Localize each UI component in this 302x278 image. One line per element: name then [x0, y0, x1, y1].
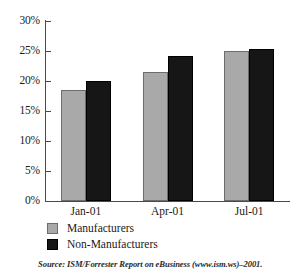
- bar-manufacturers-jul-01: [224, 51, 249, 201]
- chart-figure: 30%25%20%15%10%5%0% Jan-01Apr-01Jul-01 M…: [0, 0, 302, 278]
- chart-legend: Manufacturers Non-Manufacturers: [47, 220, 277, 252]
- y-axis-tick-label: 25%: [0, 45, 40, 57]
- x-axis-line: [45, 201, 290, 202]
- y-axis-tick-label: 10%: [0, 135, 40, 147]
- bar-manufacturers-jan-01: [61, 90, 86, 201]
- source-note: Source: ISM/Forrester Report on eBusines…: [38, 259, 262, 269]
- gray-swatch-icon: [47, 223, 58, 234]
- legend-item-manufacturers: Manufacturers: [47, 220, 277, 236]
- legend-item-non-manufacturers: Non-Manufacturers: [47, 236, 277, 252]
- y-axis-tick: [45, 201, 51, 202]
- y-axis-tick-label: 30%: [0, 15, 40, 27]
- legend-item-label: Manufacturers: [67, 222, 134, 235]
- x-axis-tick-label: Jan-01: [46, 205, 126, 217]
- plot-area: [45, 21, 290, 201]
- x-axis-tick-label: Apr-01: [128, 205, 208, 217]
- y-axis-tick-label: 20%: [0, 75, 40, 87]
- y-axis-tick-label: 15%: [0, 105, 40, 117]
- black-swatch-icon: [47, 239, 58, 250]
- y-axis-tick-label: 5%: [0, 165, 40, 177]
- bar-manufacturers-apr-01: [143, 72, 168, 201]
- x-axis-tick-label: Jul-01: [209, 205, 289, 217]
- y-axis-tick-label: 0%: [0, 195, 40, 207]
- bar-non-manufacturers-jul-01: [249, 49, 274, 201]
- bar-non-manufacturers-apr-01: [168, 56, 193, 201]
- bar-non-manufacturers-jan-01: [86, 81, 111, 201]
- legend-item-label: Non-Manufacturers: [67, 238, 158, 251]
